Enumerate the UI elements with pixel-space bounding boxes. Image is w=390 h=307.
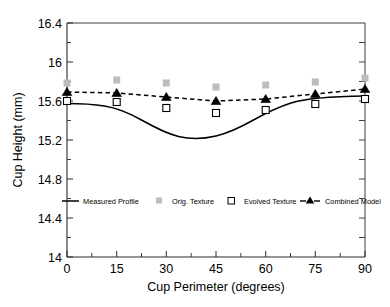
data-point-marker [362, 75, 369, 82]
legend-item-measured-profile: Measured Profile [62, 197, 139, 206]
y-tick-label: 15.2 [38, 134, 62, 148]
chart-legend: Measured Profile Orig. Texture Evolved T… [62, 197, 381, 207]
y-tick-label: 14.8 [38, 173, 62, 187]
data-point-marker [311, 90, 321, 98]
y-axis-title: Cup Height (mm) [11, 92, 25, 187]
y-tick-label: 16 [48, 56, 62, 70]
y-axis-ticks [67, 23, 73, 257]
x-tick-label: 30 [159, 262, 173, 276]
legend-label: Measured Profile [83, 197, 139, 206]
y-tick-label: 16.4 [38, 17, 62, 31]
data-point-marker [163, 80, 170, 87]
legend-label: Combined Model [325, 197, 381, 206]
x-tick-label: 45 [209, 262, 223, 276]
legend-triangle-swatch-icon [306, 197, 315, 204]
legend-gray-square-swatch-icon [156, 198, 162, 204]
data-point-marker [211, 97, 221, 105]
x-tick-labels: 0 15 30 45 60 75 90 [64, 262, 372, 276]
legend-label: Evolved Texture [244, 197, 296, 206]
series-orig-texture-markers [64, 75, 369, 91]
y-tick-labels: 16.4 16 15.6 15.2 14.8 14.4 14 [38, 17, 62, 265]
data-point-marker [213, 84, 220, 91]
data-point-marker [362, 96, 369, 103]
x-axis-title: Cup Perimeter (degrees) [147, 280, 285, 294]
legend-label: Orig. Texture [172, 197, 214, 206]
legend-item-orig-texture: Orig. Texture [156, 197, 214, 206]
data-point-marker [113, 77, 120, 84]
data-point-marker [64, 98, 71, 105]
x-axis-ticks [67, 251, 365, 257]
data-point-marker [360, 85, 370, 93]
data-point-marker [213, 110, 220, 117]
legend-open-square-swatch-icon [228, 198, 235, 205]
data-point-marker [163, 105, 170, 112]
x-tick-label: 75 [308, 262, 322, 276]
data-point-marker [312, 79, 319, 86]
legend-item-evolved-texture: Evolved Texture [228, 197, 296, 206]
y-tick-label: 14 [48, 251, 62, 265]
data-point-marker [262, 82, 269, 89]
y-tick-label: 15.6 [38, 95, 62, 109]
x-tick-label: 90 [358, 262, 372, 276]
right-axis-ticks [359, 43, 365, 238]
chart-canvas: 16.4 16 15.6 15.2 14.8 14.4 14 0 15 30 4… [0, 0, 390, 307]
y-tick-label: 14.4 [38, 212, 62, 226]
data-point-marker [262, 107, 269, 114]
data-point-marker [64, 80, 71, 87]
data-point-marker [312, 101, 319, 108]
plot-frame [67, 23, 365, 257]
x-tick-label: 15 [110, 262, 124, 276]
x-tick-label: 60 [259, 262, 273, 276]
data-point-marker [113, 99, 120, 106]
x-tick-label: 0 [64, 262, 71, 276]
legend-item-combined-model: Combined Model [300, 197, 381, 207]
chart-figure: 16.4 16 15.6 15.2 14.8 14.4 14 0 15 30 4… [0, 0, 390, 307]
